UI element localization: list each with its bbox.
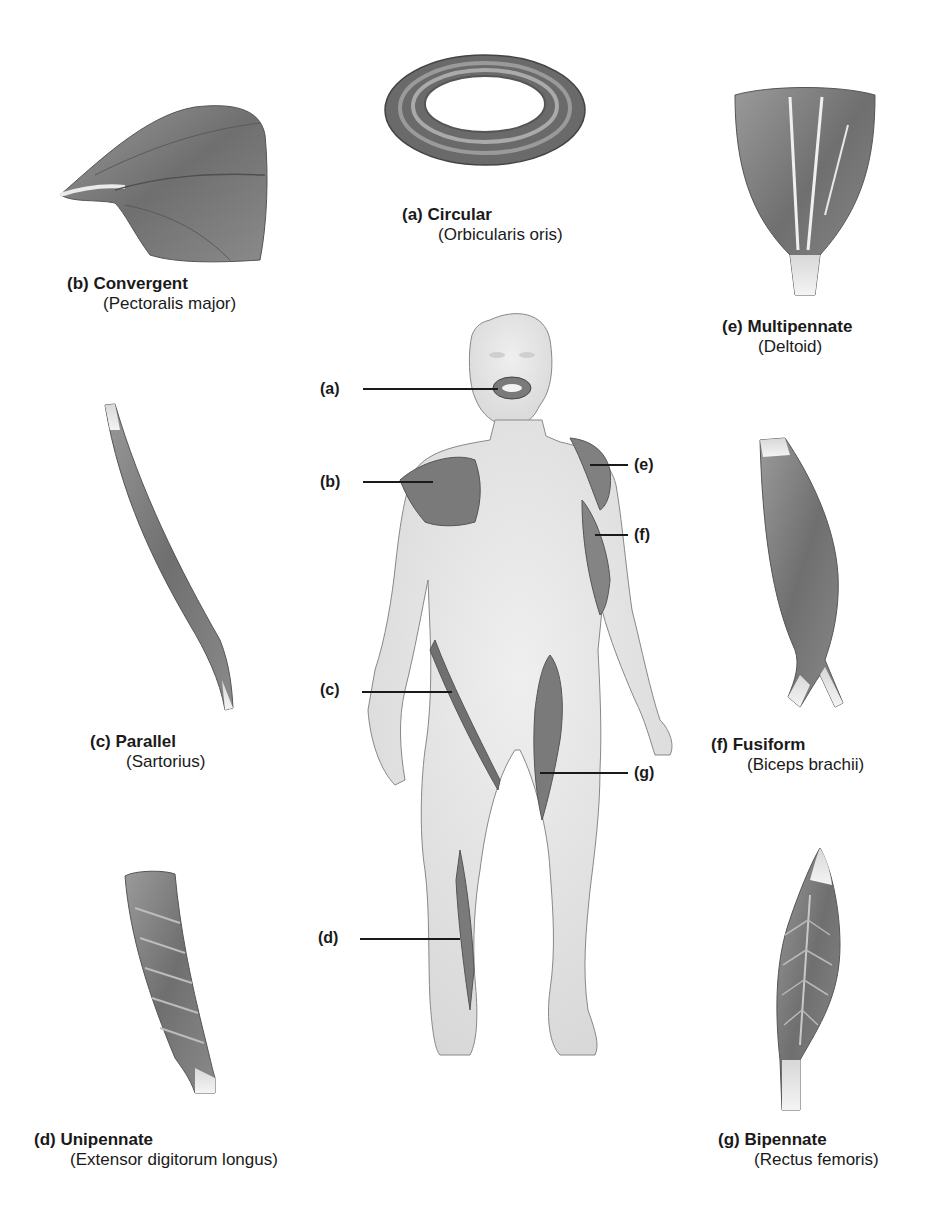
caption-type: Parallel <box>116 732 177 751</box>
callout-e: (e) <box>634 456 654 474</box>
caption-example: (Pectoralis major) <box>67 294 236 314</box>
caption-type: Circular <box>428 205 492 224</box>
human-body-figure <box>360 310 680 1070</box>
callout-b: (b) <box>320 473 340 491</box>
caption-letter: (g) <box>718 1130 740 1149</box>
multipennate-muscle-illustration <box>730 85 880 300</box>
callout-g: (g) <box>634 764 654 782</box>
caption-unipennate: (d) Unipennate (Extensor digitorum longu… <box>34 1130 278 1170</box>
unipennate-muscle-illustration <box>120 868 220 1098</box>
caption-convergent: (b) Convergent (Pectoralis major) <box>67 274 236 314</box>
caption-parallel: (c) Parallel (Sartorius) <box>90 732 205 772</box>
caption-letter: (e) <box>722 317 743 336</box>
callout-c: (c) <box>320 681 340 699</box>
leader-line-f <box>595 534 628 536</box>
caption-letter: (f) <box>711 735 728 754</box>
callout-f: (f) <box>634 526 650 544</box>
caption-example: (Rectus femoris) <box>718 1150 879 1170</box>
caption-circular: (a) Circular (Orbicularis oris) <box>402 205 563 245</box>
leader-line-c <box>362 691 452 693</box>
caption-fusiform: (f) Fusiform (Biceps brachii) <box>711 735 864 775</box>
caption-bipennate: (g) Bipennate (Rectus femoris) <box>718 1130 879 1170</box>
caption-type: Convergent <box>93 274 187 293</box>
bipennate-muscle-illustration <box>770 845 850 1115</box>
caption-example: (Sartorius) <box>90 752 205 772</box>
leader-line-e <box>590 464 628 466</box>
convergent-muscle-illustration <box>55 95 275 265</box>
caption-letter: (c) <box>90 732 111 751</box>
caption-multipennate: (e) Multipennate (Deltoid) <box>722 317 852 357</box>
parallel-muscle-illustration <box>100 400 240 715</box>
fusiform-muscle-illustration <box>755 435 865 710</box>
circular-muscle-illustration <box>380 30 590 190</box>
leader-line-b <box>363 481 433 483</box>
caption-example: (Orbicularis oris) <box>402 225 563 245</box>
caption-letter: (a) <box>402 205 423 224</box>
leader-line-d <box>360 938 460 940</box>
caption-type: Multipennate <box>748 317 853 336</box>
caption-type: Bipennate <box>744 1130 826 1149</box>
caption-letter: (b) <box>67 274 89 293</box>
caption-type: Unipennate <box>60 1130 153 1149</box>
caption-example: (Deltoid) <box>722 337 852 357</box>
callout-d: (d) <box>318 929 338 947</box>
caption-example: (Extensor digitorum longus) <box>34 1150 278 1170</box>
callout-a: (a) <box>320 380 340 398</box>
leader-line-g <box>540 772 628 774</box>
caption-type: Fusiform <box>733 735 806 754</box>
caption-example: (Biceps brachii) <box>711 755 864 775</box>
leader-line-a <box>363 388 498 390</box>
caption-letter: (d) <box>34 1130 56 1149</box>
